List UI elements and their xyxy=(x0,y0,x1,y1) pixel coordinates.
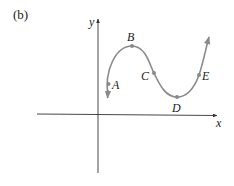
curve xyxy=(107,37,209,97)
point-a-label: A xyxy=(111,78,120,92)
point-a xyxy=(107,82,111,86)
point-c-label: C xyxy=(141,69,150,83)
point-b-label: B xyxy=(127,30,135,44)
x-axis xyxy=(37,114,217,116)
point-e xyxy=(197,73,201,77)
panel-label: (b) xyxy=(13,7,28,22)
cubic-curve-diagram: (b) x y A B C D E xyxy=(0,0,234,186)
point-d-label: D xyxy=(171,101,181,115)
point-e-label: E xyxy=(201,69,210,83)
point-d xyxy=(175,95,179,99)
point-b xyxy=(130,44,134,48)
x-axis-label: x xyxy=(215,116,222,130)
point-c xyxy=(152,71,156,75)
y-axis-label: y xyxy=(88,15,95,29)
